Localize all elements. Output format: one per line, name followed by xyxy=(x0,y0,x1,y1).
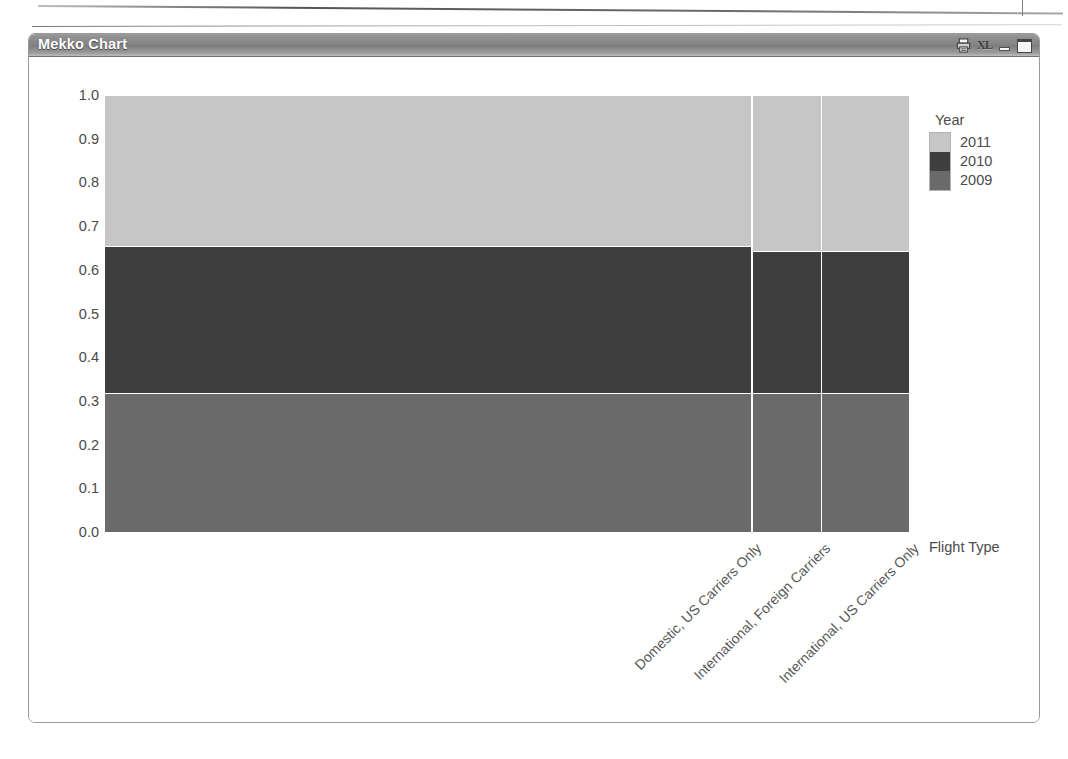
legend-swatch-2011[interactable] xyxy=(930,133,950,152)
y-tick-label: 0.6 xyxy=(53,262,99,278)
mekko-column xyxy=(105,95,751,532)
minimize-icon xyxy=(998,39,1011,52)
chart-canvas: 1.0 0.9 0.8 0.7 0.6 0.5 0.4 0.3 0.2 0.1 … xyxy=(29,57,1039,722)
legend-swatches xyxy=(929,132,951,191)
y-tick-label: 0.9 xyxy=(53,131,99,147)
legend-swatch-2010[interactable] xyxy=(930,152,950,171)
mekko-column xyxy=(753,95,821,532)
scan-artifact-line-top xyxy=(38,5,1063,14)
mekko-segment-2009[interactable] xyxy=(105,393,751,532)
excel-export-button[interactable]: XL xyxy=(977,37,992,55)
mekko-chart-window: Mekko Chart XL xyxy=(28,33,1040,723)
mekko-segment-2010[interactable] xyxy=(105,246,751,393)
legend: Year 2011 2010 2009 xyxy=(929,112,1034,191)
x-axis: Domestic, US Carriers OnlyInternational,… xyxy=(105,540,935,723)
minimize-button[interactable] xyxy=(998,37,1011,55)
window-titlebar[interactable]: Mekko Chart XL xyxy=(29,34,1039,57)
x-tick-label: International, Foreign Carriers xyxy=(691,540,834,683)
print-icon xyxy=(956,38,971,53)
y-tick-label: 0.5 xyxy=(53,306,99,322)
mekko-segment-2009[interactable] xyxy=(822,393,909,532)
legend-label-2010: 2010 xyxy=(960,152,992,171)
scan-artifact-line-second xyxy=(32,24,1062,27)
mekko-segment-2011[interactable] xyxy=(822,95,909,251)
window-controls: XL xyxy=(956,34,1032,57)
maximize-button[interactable] xyxy=(1017,37,1032,55)
y-tick-label: 1.0 xyxy=(53,87,99,103)
legend-title: Year xyxy=(935,112,1034,128)
x-axis-title: Flight Type xyxy=(929,539,1000,555)
y-tick-label: 0.7 xyxy=(53,218,99,234)
y-tick-label: 0.4 xyxy=(53,349,99,365)
maximize-icon xyxy=(1017,39,1032,53)
mekko-segment-2009[interactable] xyxy=(753,393,821,532)
mekko-segment-2011[interactable] xyxy=(753,95,821,251)
legend-body: 2011 2010 2009 xyxy=(929,132,1034,191)
y-tick-label: 0.1 xyxy=(53,480,99,496)
y-axis: 1.0 0.9 0.8 0.7 0.6 0.5 0.4 0.3 0.2 0.1 … xyxy=(47,95,99,532)
print-button[interactable] xyxy=(956,37,971,55)
window-title: Mekko Chart xyxy=(38,36,127,52)
mekko-column xyxy=(822,95,909,532)
excel-xl-icon: XL xyxy=(977,38,992,53)
mekko-plot xyxy=(105,95,911,532)
legend-label-2011: 2011 xyxy=(960,133,992,152)
legend-labels: 2011 2010 2009 xyxy=(960,132,992,191)
scan-artifact-tick xyxy=(1022,0,1023,16)
y-tick-label: 0.8 xyxy=(53,174,99,190)
y-tick-label: 0.3 xyxy=(53,393,99,409)
y-tick-label: 0.0 xyxy=(53,524,99,540)
mekko-segment-2010[interactable] xyxy=(753,251,821,393)
legend-swatch-2009[interactable] xyxy=(930,171,950,190)
mekko-segment-2011[interactable] xyxy=(105,95,751,246)
screenshot-root: Mekko Chart XL xyxy=(0,0,1068,759)
x-tick-label: Domestic, US Carriers Only xyxy=(631,540,764,673)
mekko-segment-2010[interactable] xyxy=(822,251,909,393)
legend-label-2009: 2009 xyxy=(960,171,992,190)
y-tick-label: 0.2 xyxy=(53,437,99,453)
